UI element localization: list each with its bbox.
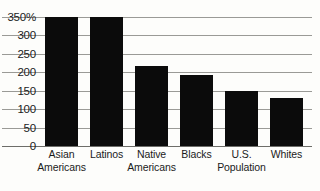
ytick-label-50: 50 — [24, 122, 36, 134]
bar-us-population — [225, 91, 258, 146]
x-label-native-americans-line2: Americans — [120, 161, 183, 174]
x-axis-labels: Asian Americans Latinos Native Americans… — [42, 148, 312, 190]
ytick-label-100: 100 — [17, 103, 36, 115]
axis-baseline-0: 0 — [42, 146, 312, 147]
x-label-whites: Whites — [255, 148, 318, 161]
bar-slot-native-americans — [135, 17, 168, 146]
bars-group — [42, 17, 312, 146]
bar-asian-americans — [45, 17, 78, 146]
x-label-whites-line1: Whites — [255, 148, 318, 161]
bar-slot-asian-americans — [45, 17, 78, 146]
bar-whites — [270, 98, 303, 146]
ytick-label-200: 200 — [17, 66, 36, 78]
bar-blacks — [180, 75, 213, 146]
x-label-us-population-line2: Population — [210, 161, 273, 174]
ytick-rule-50 — [2, 128, 42, 129]
ytick-label-150: 150 — [17, 85, 36, 97]
ytick-label-300: 300 — [17, 29, 36, 41]
bar-slot-latinos — [90, 17, 123, 146]
ytick-label-250: 250 — [17, 48, 36, 60]
bar-slot-whites — [270, 17, 303, 146]
ytick-label-350: 350% — [7, 11, 36, 23]
ytick-rule-0 — [2, 146, 42, 147]
bar-chart: 350% 300 250 200 150 100 — [0, 0, 320, 191]
plot-area: 350% 300 250 200 150 100 — [42, 17, 312, 146]
bar-native-americans — [135, 66, 168, 146]
bar-slot-us-population — [225, 17, 258, 146]
bar-latinos — [90, 17, 123, 146]
x-label-asian-americans-line2: Americans — [30, 161, 93, 174]
bar-slot-blacks — [180, 17, 213, 146]
